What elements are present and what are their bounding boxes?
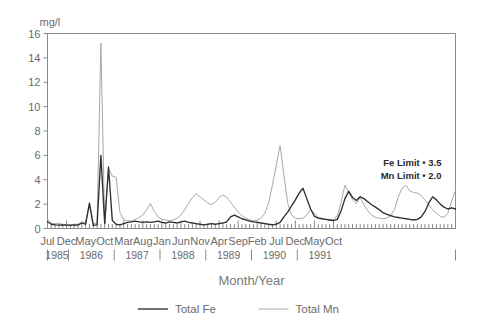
y-axis-tick-label: 14 [28, 52, 40, 64]
x-axis-tick-label: Aug [133, 235, 153, 247]
legend-label-total-fe: Total Fe [175, 303, 216, 315]
x-axis-tick-label: Nov [190, 235, 210, 247]
x-axis-year-label: 1988 [171, 249, 195, 261]
x-axis-title: Month/Year [218, 273, 285, 288]
x-axis-tick-label: Sep [228, 235, 248, 247]
y-axis-tick-label: 16 [28, 28, 40, 40]
x-axis-tick-label: May [304, 235, 325, 247]
y-axis-unit-label: mg/l [40, 16, 61, 28]
y-axis-tick-label: 4 [34, 174, 40, 186]
x-axis-tick-label: Jan [153, 235, 171, 247]
x-axis-year-label: 1990 [263, 249, 287, 261]
x-axis-tick-label: Oct [325, 235, 342, 247]
x-axis-tick-label: Apr [211, 235, 228, 247]
x-axis-tick-label: Dec [57, 235, 77, 247]
chart-container: 0246810121416mg/lJulDecMayOctMarAugJanJu… [0, 0, 483, 333]
limit-annotation: Mn Limit • 2.0 [381, 170, 442, 181]
y-axis-tick-label: 2 [34, 198, 40, 210]
line-chart: 0246810121416mg/lJulDecMayOctMarAugJanJu… [0, 0, 483, 333]
limit-annotation: Fe Limit • 3.5 [383, 157, 442, 168]
x-axis-tick-label: Jul [40, 235, 54, 247]
y-axis-tick-label: 6 [34, 149, 40, 161]
x-axis-year-label: 1987 [125, 249, 149, 261]
x-axis-year-label: 1991 [308, 249, 332, 261]
x-axis-year-label: 1985 [45, 249, 69, 261]
x-axis-tick-label: Jul [269, 235, 283, 247]
y-axis-tick-label: 12 [28, 76, 40, 88]
series-line-total-mn [48, 43, 456, 225]
x-axis-tick-label: Dec [286, 235, 306, 247]
x-axis-tick-label: Jun [172, 235, 190, 247]
x-axis-year-label: 1989 [217, 249, 241, 261]
x-axis-year-label: 1986 [80, 249, 104, 261]
legend-label-total-mn: Total Mn [296, 303, 339, 315]
x-axis-tick-label: Oct [96, 235, 113, 247]
x-axis-tick-label: May [75, 235, 96, 247]
y-axis-tick-label: 0 [34, 223, 40, 235]
plot-frame [48, 34, 456, 229]
x-axis-tick-label: Feb [248, 235, 267, 247]
x-axis-tick-label: Mar [114, 235, 133, 247]
y-axis-tick-label: 10 [28, 101, 40, 113]
y-axis-tick-label: 8 [34, 125, 40, 137]
